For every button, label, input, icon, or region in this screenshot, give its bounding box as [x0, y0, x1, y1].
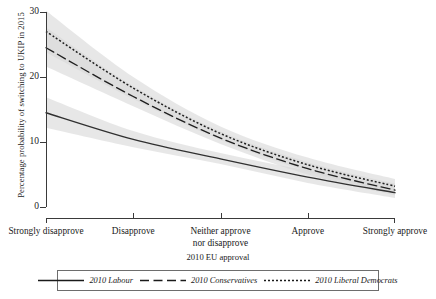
confidence-band — [46, 11, 395, 193]
x-axis-tick — [221, 213, 222, 218]
confidence-bands — [46, 11, 395, 198]
y-axis-line — [46, 12, 47, 207]
x-axis-tick-label-line: nor disapprove — [156, 238, 286, 250]
x-axis-tick-label-line: Strongly approve — [330, 226, 436, 238]
legend-swatch-dashed — [140, 277, 186, 284]
chart-legend: 2010 Labour2010 Conservatives2010 Libera… — [57, 270, 379, 291]
legend-swatch-dotted — [264, 277, 310, 284]
x-axis-label: 2010 EU approval — [0, 252, 436, 262]
legend-label: 2010 Labour — [89, 276, 133, 285]
x-axis-tick — [308, 213, 309, 218]
y-axis-tick — [40, 77, 46, 78]
figure: 0102030 Percentage probability of switch… — [0, 0, 436, 299]
x-axis-right-cap — [394, 218, 395, 223]
x-axis-left-cap — [46, 218, 47, 223]
y-axis-tick — [40, 207, 46, 208]
x-axis-line — [46, 218, 395, 219]
legend-label: 2010 Liberal Democrats — [315, 276, 397, 285]
legend-swatch-solid — [38, 277, 84, 284]
legend-entry: 2010 Conservatives — [140, 276, 257, 285]
chart-canvas — [46, 12, 395, 207]
y-axis-label: Percentage probability of switching to U… — [16, 5, 26, 205]
x-axis-tick — [133, 213, 134, 218]
legend-entry: 2010 Liberal Democrats — [264, 276, 397, 285]
legend-label: 2010 Conservatives — [191, 276, 257, 285]
y-axis-tick — [40, 12, 46, 13]
x-axis-tick-label: Strongly approve — [330, 226, 436, 238]
plot-area — [46, 12, 395, 207]
y-axis-tick — [40, 142, 46, 143]
legend-entry: 2010 Labour — [38, 276, 133, 285]
